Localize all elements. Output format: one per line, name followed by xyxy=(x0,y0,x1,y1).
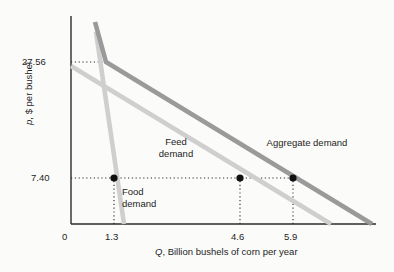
x-tick-1-3: 1.3 xyxy=(105,231,118,242)
y-tick-7-40: 7.40 xyxy=(31,172,50,183)
annotation-feed-demand: Feed demand xyxy=(148,136,204,159)
x-axis-units: , Billion bushels of corn per year xyxy=(162,246,297,257)
chart-figure: p, $ per bushel Q, Billion bushels of co… xyxy=(0,0,394,272)
annotation-aggregate-demand: Aggregate demand xyxy=(255,137,359,149)
y-axis-units: , $ per bushel xyxy=(23,62,34,120)
axis-lines xyxy=(71,16,376,224)
x-tick-0: 0 xyxy=(62,231,67,242)
annotation-feed-demand-line2: demand xyxy=(148,148,204,160)
y-tick-27-56: 27.56 xyxy=(22,56,46,67)
annotation-food-demand-line1: Food xyxy=(122,186,178,198)
annotation-food-demand: Food demand xyxy=(122,186,178,209)
annotation-food-demand-line2: demand xyxy=(122,198,178,210)
curve-food-demand xyxy=(96,32,124,224)
annotation-feed-demand-line1: Feed xyxy=(148,136,204,148)
marker-aggregate-demand xyxy=(289,174,296,181)
y-axis-symbol: p xyxy=(23,120,34,125)
x-tick-4-6: 4.6 xyxy=(231,231,244,242)
x-tick-5-9: 5.9 xyxy=(284,231,297,242)
marker-food-demand xyxy=(110,174,117,181)
x-axis-label: Q, Billion bushels of corn per year xyxy=(155,246,298,257)
marker-feed-demand xyxy=(236,174,243,181)
